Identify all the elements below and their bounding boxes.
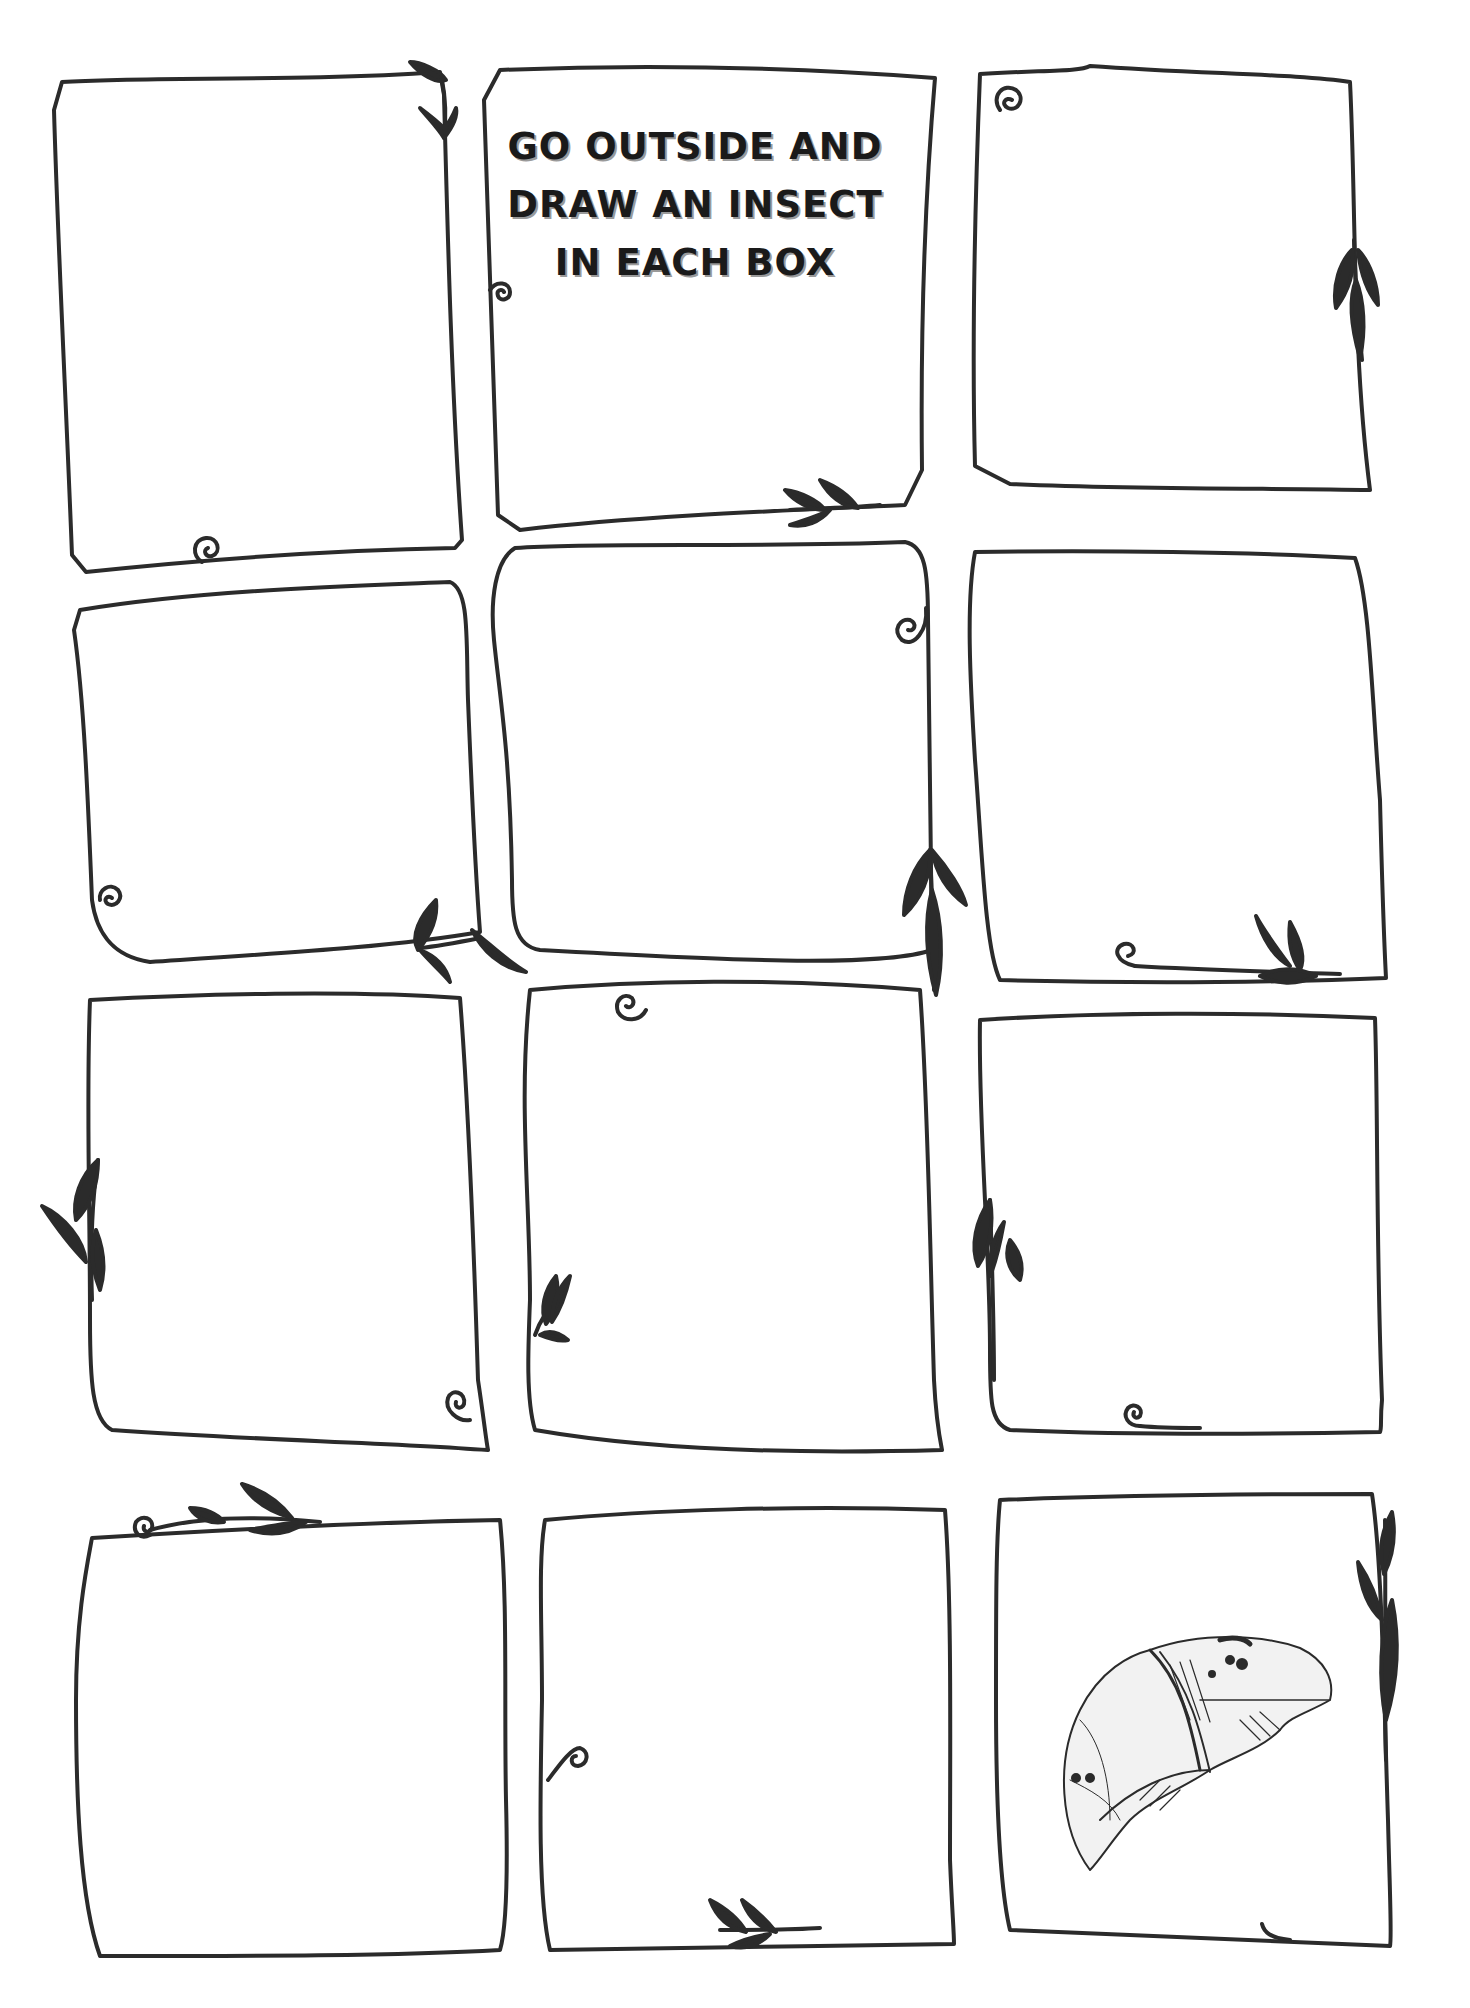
drawing-area-12[interactable]	[1000, 1500, 1380, 1940]
drawing-area-1[interactable]	[60, 80, 455, 560]
instruction-line-2: DRAW AN INSECT	[500, 176, 890, 234]
drawing-area-8[interactable]	[530, 990, 930, 1440]
drawing-area-11[interactable]	[545, 1515, 945, 1945]
drawing-area-7[interactable]	[92, 1000, 477, 1435]
drawing-area-5[interactable]	[500, 550, 925, 950]
drawing-area-2[interactable]	[490, 300, 920, 520]
instruction-title: GO OUTSIDE AND DRAW AN INSECT IN EACH BO…	[500, 118, 890, 292]
drawing-area-6[interactable]	[978, 558, 1378, 973]
instruction-line-1: GO OUTSIDE AND	[500, 118, 890, 176]
drawing-area-3[interactable]	[980, 80, 1360, 480]
drawing-area-9[interactable]	[985, 1020, 1375, 1425]
instruction-line-3: IN EACH BOX	[500, 234, 890, 292]
drawing-area-10[interactable]	[80, 1530, 500, 1950]
drawing-area-4[interactable]	[80, 595, 470, 950]
